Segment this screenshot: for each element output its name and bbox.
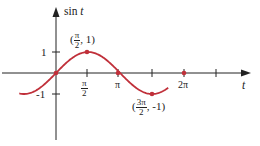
trough-annotation: (3π2, -1): [132, 98, 165, 117]
x-tick-label-pi: π: [115, 80, 120, 90]
y-tick-label-1: 1: [41, 47, 47, 58]
fraction-pi-over-2: π 2: [81, 79, 88, 98]
x-tick-label-pi-half: π 2: [81, 79, 88, 98]
annotation-rest: , 1): [80, 33, 95, 45]
y-axis-label-var: t: [80, 5, 83, 17]
x-axis-label: t: [242, 80, 245, 92]
y-tick-label-neg1: -1: [36, 89, 45, 100]
x-tick-label-2pi: 2π: [178, 80, 188, 90]
peak-annotation: (π2, 1): [70, 31, 95, 50]
frac-den: 2: [81, 89, 88, 98]
frac-den: 2: [138, 108, 145, 117]
x-axis-arrow-icon: [241, 70, 251, 77]
y-axis-arrow-icon: [53, 7, 60, 17]
fraction-3pi-over-2: 3π2: [136, 98, 147, 117]
y-axis-label-func: sin: [64, 5, 77, 17]
y-axis-label: sin t: [64, 6, 84, 18]
sine-plot: [0, 0, 260, 146]
annotation-rest: , -1): [147, 100, 165, 112]
